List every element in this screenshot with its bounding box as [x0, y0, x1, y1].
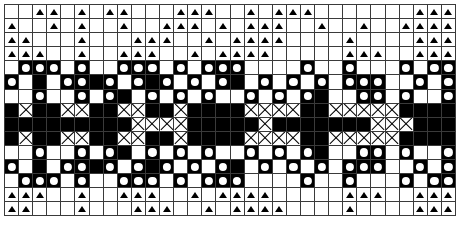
cell-dot[interactable]: [75, 61, 88, 74]
cell-empty[interactable]: [400, 5, 413, 18]
cell-dot[interactable]: [5, 75, 18, 88]
cell-triangle[interactable]: [428, 47, 441, 60]
cell-triangle[interactable]: [132, 47, 145, 60]
cell-dot[interactable]: [400, 174, 413, 187]
cell-black[interactable]: [118, 146, 131, 159]
cell-empty[interactable]: [160, 5, 173, 18]
cell-empty[interactable]: [400, 33, 413, 46]
cell-empty[interactable]: [315, 33, 328, 46]
cell-empty[interactable]: [273, 160, 286, 173]
cell-triangle[interactable]: [287, 5, 300, 18]
cell-black[interactable]: [61, 118, 74, 131]
cell-dot[interactable]: [132, 174, 145, 187]
cell-dot[interactable]: [146, 174, 159, 187]
cell-black[interactable]: [118, 118, 131, 131]
cell-empty[interactable]: [132, 90, 145, 103]
cell-empty[interactable]: [386, 75, 399, 88]
cell-empty[interactable]: [386, 19, 399, 32]
cell-triangle[interactable]: [5, 47, 18, 60]
cell-empty[interactable]: [315, 47, 328, 60]
cell-empty[interactable]: [104, 19, 117, 32]
cell-empty[interactable]: [428, 160, 441, 173]
cell-triangle[interactable]: [33, 188, 46, 201]
cell-empty[interactable]: [202, 188, 215, 201]
cell-black[interactable]: [47, 104, 60, 117]
cell-triangle[interactable]: [273, 202, 286, 215]
cell-triangle[interactable]: [174, 5, 187, 18]
cell-dot[interactable]: [75, 90, 88, 103]
cell-empty[interactable]: [386, 202, 399, 215]
cell-black[interactable]: [442, 104, 455, 117]
cell-black[interactable]: [315, 90, 328, 103]
cell-dot[interactable]: [118, 174, 131, 187]
cell-triangle[interactable]: [371, 188, 384, 201]
cell-empty[interactable]: [19, 75, 32, 88]
cell-black[interactable]: [5, 118, 18, 131]
cell-black[interactable]: [400, 104, 413, 117]
cell-black[interactable]: [329, 118, 342, 131]
cell-empty[interactable]: [329, 33, 342, 46]
cell-cross[interactable]: [61, 132, 74, 145]
cell-black[interactable]: [188, 132, 201, 145]
cell-black[interactable]: [75, 118, 88, 131]
cell-empty[interactable]: [146, 5, 159, 18]
cell-black[interactable]: [146, 132, 159, 145]
cell-empty[interactable]: [400, 188, 413, 201]
cell-empty[interactable]: [90, 174, 103, 187]
cell-triangle[interactable]: [118, 188, 131, 201]
cell-black[interactable]: [231, 118, 244, 131]
cell-dot[interactable]: [273, 146, 286, 159]
cell-triangle[interactable]: [414, 188, 427, 201]
cell-empty[interactable]: [118, 33, 131, 46]
cell-black[interactable]: [231, 75, 244, 88]
cell-empty[interactable]: [132, 5, 145, 18]
cell-empty[interactable]: [329, 160, 342, 173]
cell-empty[interactable]: [47, 202, 60, 215]
cell-triangle[interactable]: [75, 19, 88, 32]
cell-empty[interactable]: [386, 90, 399, 103]
cell-empty[interactable]: [5, 61, 18, 74]
cell-triangle[interactable]: [357, 47, 370, 60]
cell-empty[interactable]: [202, 160, 215, 173]
cell-black[interactable]: [146, 104, 159, 117]
cell-cross[interactable]: [357, 104, 370, 117]
cell-empty[interactable]: [371, 5, 384, 18]
cell-triangle[interactable]: [216, 188, 229, 201]
cell-dot[interactable]: [174, 174, 187, 187]
cell-empty[interactable]: [259, 5, 272, 18]
cell-empty[interactable]: [414, 146, 427, 159]
cell-empty[interactable]: [104, 33, 117, 46]
cell-empty[interactable]: [329, 19, 342, 32]
cell-cross[interactable]: [273, 132, 286, 145]
cell-empty[interactable]: [202, 75, 215, 88]
cell-empty[interactable]: [118, 160, 131, 173]
cell-black[interactable]: [33, 75, 46, 88]
cell-empty[interactable]: [259, 146, 272, 159]
cell-empty[interactable]: [245, 61, 258, 74]
cell-dot[interactable]: [188, 75, 201, 88]
cell-cross[interactable]: [329, 132, 342, 145]
cell-triangle[interactable]: [442, 188, 455, 201]
cell-empty[interactable]: [371, 61, 384, 74]
cell-cross[interactable]: [19, 132, 32, 145]
cell-empty[interactable]: [343, 146, 356, 159]
cell-black[interactable]: [90, 118, 103, 131]
cell-empty[interactable]: [386, 160, 399, 173]
cell-triangle[interactable]: [104, 5, 117, 18]
cell-dot[interactable]: [442, 146, 455, 159]
cell-cross[interactable]: [329, 104, 342, 117]
cell-dot[interactable]: [400, 61, 413, 74]
cell-dot[interactable]: [75, 160, 88, 173]
cell-black[interactable]: [90, 132, 103, 145]
cell-dot[interactable]: [33, 174, 46, 187]
cell-empty[interactable]: [33, 19, 46, 32]
cell-triangle[interactable]: [231, 47, 244, 60]
cell-black[interactable]: [104, 118, 117, 131]
cell-triangle[interactable]: [414, 202, 427, 215]
cell-dot[interactable]: [146, 90, 159, 103]
cell-empty[interactable]: [301, 160, 314, 173]
cell-black[interactable]: [216, 118, 229, 131]
cell-triangle[interactable]: [231, 202, 244, 215]
cell-empty[interactable]: [104, 188, 117, 201]
cell-triangle[interactable]: [216, 19, 229, 32]
